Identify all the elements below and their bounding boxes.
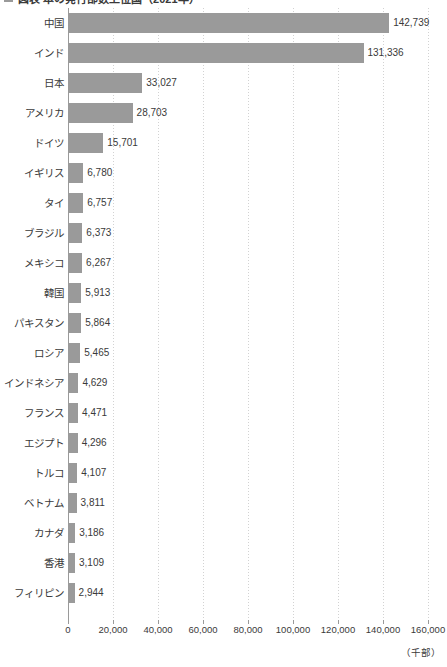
bar-row[interactable]: エジプト4,296	[0, 428, 447, 458]
x-tick-label: 140,000	[366, 624, 400, 635]
category-label: ドイツ	[0, 128, 64, 158]
category-label: メキシコ	[0, 248, 64, 278]
bar-row[interactable]: ドイツ15,701	[0, 128, 447, 158]
category-label: ベトナム	[0, 488, 64, 518]
chart-title: 図表 本の発行部数上位国（2021年）	[4, 0, 200, 5]
category-label: ブラジル	[0, 218, 64, 248]
category-label: カナダ	[0, 518, 64, 548]
bar-row[interactable]: 韓国5,913	[0, 278, 447, 308]
bar[interactable]	[68, 43, 364, 63]
bar[interactable]	[68, 463, 77, 483]
bar-row[interactable]: イギリス6,780	[0, 158, 447, 188]
category-label: インド	[0, 38, 64, 68]
bar[interactable]	[68, 433, 78, 453]
bar[interactable]	[68, 103, 133, 123]
bar-value-label: 6,373	[86, 218, 111, 248]
x-tick-label: 160,000	[411, 624, 445, 635]
bar-value-label: 5,913	[85, 278, 110, 308]
category-label: インドネシア	[0, 368, 64, 398]
bar-row[interactable]: パキスタン5,864	[0, 308, 447, 338]
category-label: タイ	[0, 188, 64, 218]
bar-row[interactable]: ブラジル6,373	[0, 218, 447, 248]
category-label: トルコ	[0, 458, 64, 488]
bar[interactable]	[68, 583, 75, 603]
category-label: フランス	[0, 398, 64, 428]
x-tick-label: 100,000	[276, 624, 310, 635]
bar-value-label: 3,811	[81, 488, 105, 518]
bar-value-label: 33,027	[146, 68, 177, 98]
bar-value-label: 28,703	[137, 98, 168, 128]
bar-row[interactable]: トルコ4,107	[0, 458, 447, 488]
category-label: 中国	[0, 8, 64, 38]
bar[interactable]	[68, 193, 83, 213]
x-axis-tick-labels: 020,00040,00060,00080,000100,000120,0001…	[0, 624, 447, 640]
bar-value-label: 3,109	[79, 548, 104, 578]
x-tick-label: 20,000	[98, 624, 127, 635]
bar[interactable]	[68, 523, 75, 543]
bar-row[interactable]: アメリカ28,703	[0, 98, 447, 128]
bar-row[interactable]: 香港3,109	[0, 548, 447, 578]
bar-value-label: 6,757	[87, 188, 112, 218]
bar-value-label: 4,471	[82, 398, 107, 428]
category-label: 韓国	[0, 278, 64, 308]
bar[interactable]	[68, 403, 78, 423]
bar[interactable]	[68, 223, 82, 243]
bar[interactable]	[68, 313, 81, 333]
bar[interactable]	[68, 133, 103, 153]
bar[interactable]	[68, 343, 80, 363]
chart-plot-area: 中国142,739インド131,336日本33,027アメリカ28,703ドイツ…	[0, 8, 447, 620]
bar[interactable]	[68, 493, 77, 513]
bar-row[interactable]: 日本33,027	[0, 68, 447, 98]
bar-row[interactable]: ベトナム3,811	[0, 488, 447, 518]
bar[interactable]	[68, 13, 389, 33]
bar-row[interactable]: カナダ3,186	[0, 518, 447, 548]
category-label: フィリピン	[0, 578, 64, 608]
bar-row[interactable]: 中国142,739	[0, 8, 447, 38]
category-label: パキスタン	[0, 308, 64, 338]
bar-row[interactable]: インドネシア4,629	[0, 368, 447, 398]
bar-value-label: 4,629	[82, 368, 107, 398]
category-label: アメリカ	[0, 98, 64, 128]
bar[interactable]	[68, 73, 142, 93]
bar-row[interactable]: メキシコ6,267	[0, 248, 447, 278]
bar-value-label: 5,864	[85, 308, 110, 338]
bar[interactable]	[68, 283, 81, 303]
x-tick-label: 80,000	[233, 624, 262, 635]
bar-value-label: 5,465	[84, 338, 109, 368]
bar[interactable]	[68, 373, 78, 393]
bar-value-label: 15,701	[107, 128, 138, 158]
x-tick-label: 0	[65, 624, 70, 635]
x-tick-label: 60,000	[188, 624, 217, 635]
category-label: ロシア	[0, 338, 64, 368]
chart-title-text: 図表 本の発行部数上位国（2021年）	[18, 0, 200, 6]
category-label: エジプト	[0, 428, 64, 458]
bar-value-label: 142,739	[393, 8, 429, 38]
x-tick-label: 40,000	[143, 624, 172, 635]
bar-value-label: 2,944	[79, 578, 104, 608]
bar-value-label: 6,267	[86, 248, 111, 278]
bar-row[interactable]: タイ6,757	[0, 188, 447, 218]
bar[interactable]	[68, 253, 82, 273]
category-label: 香港	[0, 548, 64, 578]
legend-square-icon	[4, 0, 13, 2]
category-label: イギリス	[0, 158, 64, 188]
bar-value-label: 4,107	[81, 458, 106, 488]
bar-value-label: 6,780	[87, 158, 112, 188]
bar[interactable]	[68, 163, 83, 183]
bar-row[interactable]: フランス4,471	[0, 398, 447, 428]
bar-row[interactable]: フィリピン2,944	[0, 578, 447, 608]
bar-value-label: 131,336	[368, 38, 404, 68]
x-axis-unit-label: （千部）	[401, 645, 441, 659]
bar-row[interactable]: インド131,336	[0, 38, 447, 68]
bar-row[interactable]: ロシア5,465	[0, 338, 447, 368]
bar-value-label: 3,186	[79, 518, 104, 548]
bar-value-label: 4,296	[82, 428, 107, 458]
x-tick-label: 120,000	[321, 624, 355, 635]
bar[interactable]	[68, 553, 75, 573]
category-label: 日本	[0, 68, 64, 98]
